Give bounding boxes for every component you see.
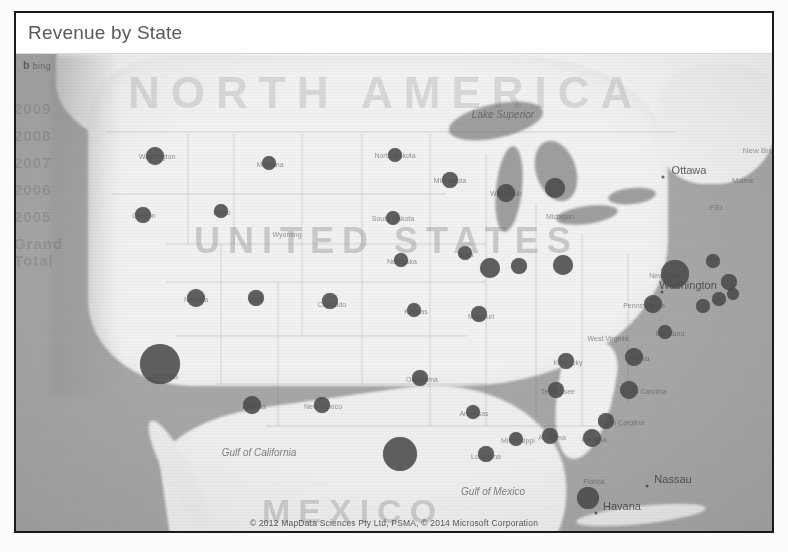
data-bubble-south-dakota[interactable] xyxy=(386,211,400,225)
data-bubble-louisiana[interactable] xyxy=(478,446,494,462)
data-bubble-california[interactable] xyxy=(140,344,180,384)
revenue-by-state-map-visual[interactable]: Revenue by State xyxy=(14,11,774,533)
data-bubble-oklahoma[interactable] xyxy=(412,370,428,386)
city-dot-ottawa xyxy=(662,176,665,179)
data-bubble-alabama[interactable] xyxy=(542,428,558,444)
data-bubble-new-york[interactable] xyxy=(661,260,689,288)
data-bubble-idaho[interactable] xyxy=(214,204,228,218)
data-bubble-kansas[interactable] xyxy=(407,303,421,317)
bing-wordmark: bing xyxy=(33,61,51,71)
data-bubble-maryland[interactable] xyxy=(658,325,672,339)
data-bubble-illinois[interactable] xyxy=(480,258,500,278)
data-bubble-montana[interactable] xyxy=(262,156,276,170)
data-bubble-arizona[interactable] xyxy=(243,396,261,414)
data-bubble-minnesota[interactable] xyxy=(442,172,458,188)
data-bubble-new-jersey[interactable] xyxy=(696,299,710,313)
data-bubble-new-mexico[interactable] xyxy=(314,397,330,413)
data-bubble-tennessee[interactable] xyxy=(548,382,564,398)
data-bubble-indiana[interactable] xyxy=(511,258,527,274)
map-attribution: © 2012 MapData Sciences Pty Ltd, PSMA, ©… xyxy=(16,518,772,528)
data-bubble-virginia[interactable] xyxy=(625,348,643,366)
data-bubble-colorado[interactable] xyxy=(322,293,338,309)
data-bubble-texas[interactable] xyxy=(383,437,417,471)
data-bubble-nebraska[interactable] xyxy=(394,253,408,267)
visual-header: Revenue by State xyxy=(16,13,772,54)
data-bubble-iowa[interactable] xyxy=(458,246,472,260)
bing-map-canvas[interactable]: NORTH AMERICA UNITED STATES MEXICO Washi… xyxy=(16,54,772,531)
data-bubble-north-carolina[interactable] xyxy=(620,381,638,399)
data-bubble-pennsylvania[interactable] xyxy=(644,295,662,313)
city-dot-nassau xyxy=(646,485,649,488)
data-bubble-michigan[interactable] xyxy=(545,178,565,198)
data-bubble-connecticut[interactable] xyxy=(712,292,726,306)
data-bubble-oregon[interactable] xyxy=(135,207,151,223)
data-bubble-arkansas[interactable] xyxy=(466,405,480,419)
page-title: Revenue by State xyxy=(28,22,182,44)
data-bubble-north-dakota[interactable] xyxy=(388,148,402,162)
data-bubble-nevada[interactable] xyxy=(187,289,205,307)
landmass-maritimes xyxy=(656,64,772,184)
data-bubble-new-hampshire[interactable] xyxy=(706,254,720,268)
city-dot-washington xyxy=(661,291,664,294)
data-bubble-utah[interactable] xyxy=(248,290,264,306)
data-bubble-missouri[interactable] xyxy=(471,306,487,322)
data-bubble-ohio[interactable] xyxy=(553,255,573,275)
data-bubble-massachusetts[interactable] xyxy=(721,274,737,290)
data-bubble-mississippi[interactable] xyxy=(509,432,523,446)
pacific-coast-shading xyxy=(50,54,120,394)
data-bubble-georgia[interactable] xyxy=(583,429,601,447)
data-bubble-florida[interactable] xyxy=(577,487,599,509)
data-bubble-south-carolina[interactable] xyxy=(598,413,614,429)
bing-mark-icon: b xyxy=(23,60,30,71)
data-bubble-kentucky[interactable] xyxy=(558,353,574,369)
city-dot-havana xyxy=(595,512,598,515)
data-bubble-wisconsin[interactable] xyxy=(497,184,515,202)
bing-logo[interactable]: b bing xyxy=(23,60,51,71)
data-bubble-washington[interactable] xyxy=(146,147,164,165)
